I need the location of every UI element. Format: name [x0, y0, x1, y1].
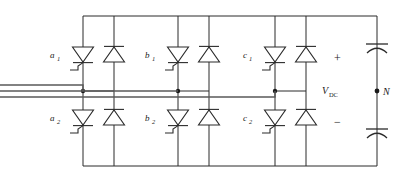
thyristor-b1-body	[168, 47, 189, 62]
thyristor-b1	[165, 47, 189, 70]
thyristor-c1	[262, 47, 286, 70]
label-b2-subscript: 2	[152, 118, 156, 125]
thyristor-a1-gate-lead	[70, 63, 83, 70]
thyristor-b2-gate-lead	[165, 126, 178, 133]
node-dc-neutral-point	[375, 89, 380, 94]
diode-b1-body	[199, 47, 220, 62]
diode-c1	[296, 46, 317, 62]
label-vdc-subscript: DC	[329, 91, 338, 98]
label-neutral-point: N	[382, 86, 391, 97]
thyristor-a2-body	[73, 110, 94, 125]
circuit-schematic-canvas: a 1 a 2 b 1 b 2 c 1 c 2 + − V DC	[0, 0, 398, 182]
label-b1-subscript: 1	[152, 55, 155, 62]
label-a2: a 2	[50, 113, 61, 125]
label-c2: c 2	[243, 113, 253, 125]
thyristor-b2	[165, 110, 189, 133]
label-c1-letter: c	[243, 50, 247, 60]
label-a1-letter: a	[50, 50, 55, 60]
thyristor-c2	[262, 110, 286, 133]
thyristor-b2-body	[168, 110, 189, 125]
thyristor-c2-body	[265, 110, 286, 125]
label-dc-negative-sign: −	[334, 115, 341, 129]
ac-line-phase-a	[0, 85, 83, 91]
label-a1-subscript: 1	[57, 55, 60, 62]
label-dc-positive-sign: +	[334, 51, 341, 65]
diode-b2	[199, 109, 220, 125]
circuit-diagram: a 1 a 2 b 1 b 2 c 1 c 2 + − V DC	[0, 0, 398, 182]
label-a2-letter: a	[50, 113, 55, 123]
thyristor-a1	[70, 47, 94, 70]
diode-c2-body	[296, 110, 317, 125]
diode-b1	[199, 46, 220, 62]
label-a2-subscript: 2	[57, 118, 61, 125]
diode-a2-body	[104, 110, 125, 125]
label-c2-letter: c	[243, 113, 247, 123]
label-b1-letter: b	[145, 50, 150, 60]
label-c2-subscript: 2	[249, 118, 253, 125]
diode-a1	[104, 46, 125, 62]
thyristor-c2-gate-lead	[262, 126, 275, 133]
label-c1: c 1	[243, 50, 252, 62]
diode-a1-body	[104, 47, 125, 62]
label-b1: b 1	[145, 50, 155, 62]
thyristor-a2-gate-lead	[70, 126, 83, 133]
thyristor-b1-gate-lead	[165, 63, 178, 70]
diode-a2	[104, 109, 125, 125]
thyristor-c1-body	[265, 47, 286, 62]
thyristor-a2	[70, 110, 94, 133]
diode-c2	[296, 109, 317, 125]
inverter-leg-c	[262, 16, 317, 166]
thyristor-c1-gate-lead	[262, 63, 275, 70]
label-b2: b 2	[145, 113, 156, 125]
diode-c1-body	[296, 47, 317, 62]
thyristor-a1-body	[73, 47, 94, 62]
diode-b2-body	[199, 110, 220, 125]
label-vdc: V DC	[322, 85, 338, 98]
ac-line-phase-c	[0, 91, 275, 97]
label-a1: a 1	[50, 50, 60, 62]
ac-input-lines	[0, 85, 275, 97]
label-c1-subscript: 1	[249, 55, 252, 62]
label-b2-letter: b	[145, 113, 150, 123]
